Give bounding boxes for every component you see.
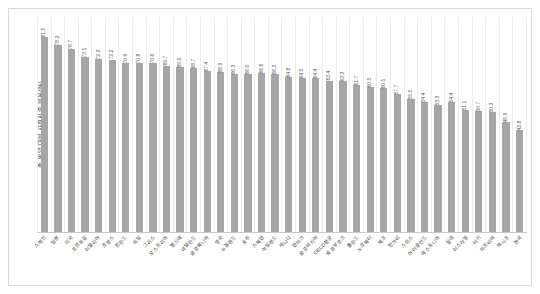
bar-column: 55.5 (404, 17, 418, 232)
bar (271, 74, 278, 232)
bar-column: 69.7 (159, 17, 173, 232)
bar-value-label: 60.1 (381, 79, 386, 89)
bar-column: 70.8 (132, 17, 146, 232)
bar-column: 66.3 (227, 17, 241, 232)
bar-column: 64.5 (295, 17, 309, 232)
bar-column: 53.3 (431, 17, 445, 232)
bar-value-label: 64.8 (286, 68, 291, 78)
bar-column: 66.6 (254, 17, 268, 232)
bar-column: 70.6 (146, 17, 160, 232)
bar-value-label: 57.7 (395, 85, 400, 95)
bar-value-label: 66.9 (218, 63, 223, 73)
bar-value-label: 50.3 (490, 102, 495, 112)
bar (367, 87, 374, 232)
bar (163, 66, 170, 233)
category-label-text: 일본 (50, 235, 61, 246)
bar (434, 105, 441, 232)
bar (394, 94, 401, 232)
bar (41, 37, 48, 232)
category-label: 라트비아 (486, 233, 500, 285)
bar (149, 63, 156, 232)
bar (448, 102, 455, 232)
bar (312, 78, 319, 232)
plot-area: 총 세입 대비 사회지출 비율(%) 81.578.276.773.172.37… (37, 17, 527, 232)
bar (68, 49, 75, 232)
bar-column: 68.7 (186, 17, 200, 232)
bar (176, 67, 183, 232)
bar-column: 57.7 (390, 17, 404, 232)
bar-column: 54.4 (444, 17, 458, 232)
category-label: 호주 (241, 233, 255, 285)
bar-value-label: 78.2 (55, 36, 60, 46)
bar (190, 68, 197, 232)
bar-value-label: 70.6 (150, 54, 155, 64)
bar-column: 66.0 (241, 17, 255, 232)
bar-column: 66.3 (268, 17, 282, 232)
category-label: 슬로바키아 (309, 233, 323, 285)
bar-value-label: 63.4 (327, 71, 332, 81)
bar-column: 54.4 (417, 17, 431, 232)
bar (516, 130, 523, 232)
bar (353, 85, 360, 232)
bar (244, 74, 251, 232)
bar (54, 45, 61, 232)
bar-value-label: 55.5 (408, 90, 413, 100)
bar (109, 60, 116, 232)
category-label-text: 한국 (513, 235, 524, 246)
bar-value-label: 73.1 (82, 48, 87, 58)
bar (489, 112, 496, 232)
bar-value-label: 54.4 (422, 93, 427, 103)
bar (204, 71, 211, 232)
bar (122, 63, 129, 232)
bar-column: 66.9 (214, 17, 228, 232)
bar-value-label: 50.7 (476, 101, 481, 111)
category-label: 미국 (64, 233, 78, 285)
bar-column: 67.4 (200, 17, 214, 232)
bar-column: 50.3 (485, 17, 499, 232)
bar-value-label: 70.9 (123, 53, 128, 63)
bar (380, 88, 387, 232)
bar-value-label: 69.7 (164, 56, 169, 66)
bar-column: 73.1 (78, 17, 92, 232)
bar-value-label: 63.3 (340, 71, 345, 81)
bar-value-label: 60.5 (368, 78, 373, 88)
bar-value-label: 69.0 (178, 58, 183, 68)
bar-value-label: 72.3 (96, 50, 101, 60)
bar-column: 51.1 (458, 17, 472, 232)
bar-value-label: 45.9 (503, 113, 508, 123)
x-axis-category-labels: 스페인일본미국포르투갈이탈리아프랑스핀란드독일그리스오스트리아벨기에네덜란드슬로… (37, 233, 527, 285)
bar-column: 72.2 (105, 17, 119, 232)
bar-column: 76.7 (64, 17, 78, 232)
bar-column: 50.7 (472, 17, 486, 232)
bar-column: 42.8 (512, 17, 527, 232)
bar-column: 81.5 (37, 17, 51, 232)
bar-value-label: 66.3 (273, 64, 278, 74)
bar-value-label: 53.3 (436, 95, 441, 105)
bar-column: 60.5 (363, 17, 377, 232)
bar (258, 73, 265, 232)
bar-column: 70.9 (118, 17, 132, 232)
category-label: 벨기에 (173, 233, 187, 285)
bar (95, 59, 102, 232)
bar-column: 63.4 (322, 17, 336, 232)
bar-value-label: 66.6 (259, 63, 264, 73)
bar-column: 72.3 (91, 17, 105, 232)
bar-value-label: 61.7 (354, 75, 359, 85)
bar-column: 69.0 (173, 17, 187, 232)
bar (136, 63, 143, 232)
bar (502, 122, 509, 232)
bar (81, 57, 88, 232)
bar-value-label: 51.1 (463, 100, 468, 110)
bar-value-label: 66.0 (245, 65, 250, 75)
bar-series: 81.578.276.773.172.372.270.970.870.669.7… (37, 17, 527, 232)
bar-column: 63.3 (336, 17, 350, 232)
bar-value-label: 67.4 (205, 61, 210, 71)
bar-column: 64.4 (309, 17, 323, 232)
bar-value-label: 72.2 (110, 50, 115, 60)
bar (421, 102, 428, 232)
bar (217, 72, 224, 232)
bar-column: 45.9 (499, 17, 513, 232)
bar-column: 64.8 (281, 17, 295, 232)
bar-column: 61.7 (349, 17, 363, 232)
bar (407, 99, 414, 232)
